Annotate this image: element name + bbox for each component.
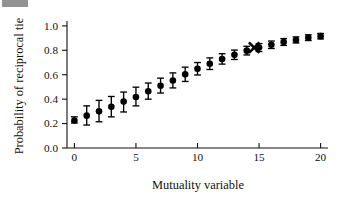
data-point xyxy=(133,94,140,101)
y-tick-label: 0.8 xyxy=(44,44,58,56)
data-point xyxy=(280,39,287,46)
x-tick-label-group: 05101520 xyxy=(72,151,327,163)
y-tick-label: 0.6 xyxy=(44,69,58,81)
data-point xyxy=(83,112,90,119)
y-tick-label: 0.4 xyxy=(44,93,58,105)
y-tick-group xyxy=(62,26,67,148)
y-tick-label-group: 0.00.20.40.60.81.0 xyxy=(44,20,58,154)
data-point xyxy=(145,88,152,95)
data-point xyxy=(157,82,164,89)
x-tick-label: 5 xyxy=(133,151,139,163)
data-point xyxy=(71,117,78,124)
data-point xyxy=(96,108,103,115)
scan-artifact xyxy=(2,0,28,7)
axes-group xyxy=(67,21,328,148)
x-tick-group xyxy=(74,143,320,148)
data-point xyxy=(243,47,250,54)
data-point xyxy=(219,56,226,63)
figure-canvas: 0.00.20.40.60.81.0 05101520 Mutuality va… xyxy=(0,0,347,199)
y-tick-label: 1.0 xyxy=(44,20,58,32)
data-point xyxy=(207,60,214,67)
x-tick-label: 10 xyxy=(192,151,204,163)
x-axis-title: Mutuality variable xyxy=(152,178,244,192)
data-point xyxy=(231,52,238,59)
data-point xyxy=(194,66,201,73)
data-point xyxy=(305,34,312,41)
error-bar-group xyxy=(71,33,324,125)
y-tick-label: 0.0 xyxy=(44,142,58,154)
x-tick-label: 15 xyxy=(253,151,265,163)
scatter-plot: 0.00.20.40.60.81.0 05101520 Mutuality va… xyxy=(0,0,347,199)
y-axis-title: Probability of reciprocal tie xyxy=(12,17,26,154)
x-tick-label: 0 xyxy=(72,151,78,163)
data-point xyxy=(293,37,300,44)
data-point xyxy=(170,77,177,84)
data-point xyxy=(268,42,275,49)
data-point xyxy=(182,71,189,78)
data-point xyxy=(317,33,324,40)
data-point xyxy=(120,98,127,105)
x-tick-label: 20 xyxy=(315,151,327,163)
y-tick-label: 0.2 xyxy=(44,117,58,129)
data-point xyxy=(108,104,115,111)
data-point-group xyxy=(71,33,324,124)
